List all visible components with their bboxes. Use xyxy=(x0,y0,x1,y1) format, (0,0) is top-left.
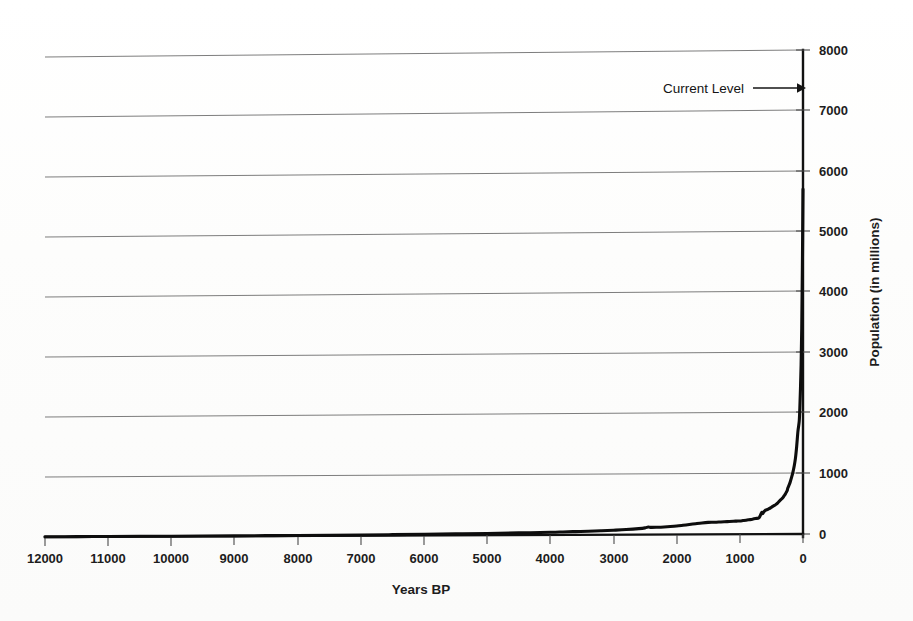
population-curve xyxy=(45,189,803,537)
chart-page: 8000 7000 6000 5000 4000 3000 2000 1000 … xyxy=(0,0,913,621)
x-tick-label-1000: 1000 xyxy=(726,551,755,566)
population-line-chart: 8000 7000 6000 5000 4000 3000 2000 1000 … xyxy=(0,0,913,621)
x-tick-label-5000: 5000 xyxy=(473,551,502,566)
y-axis-title: Population (in millions) xyxy=(867,217,882,366)
y-tick-label-8000: 8000 xyxy=(819,43,848,58)
y-axis: 8000 7000 6000 5000 4000 3000 2000 1000 … xyxy=(796,43,848,542)
x-tick-label-0: 0 xyxy=(799,551,806,566)
x-tick-label-10000: 10000 xyxy=(153,551,189,566)
y-tick-label-1000: 1000 xyxy=(819,466,848,481)
y-tick-label-6000: 6000 xyxy=(819,164,848,179)
y-tick-label-2000: 2000 xyxy=(819,405,848,420)
x-tick-label-9000: 9000 xyxy=(220,551,249,566)
y-tick-label-0: 0 xyxy=(819,527,826,542)
current-level-label: Current Level xyxy=(663,81,744,96)
x-axis-title: Years BP xyxy=(392,582,451,597)
x-axis: 12000 11000 10000 9000 8000 7000 6000 50… xyxy=(27,534,807,566)
y-tick-label-4000: 4000 xyxy=(819,284,848,299)
current-level-annotation: Current Level xyxy=(663,81,806,96)
x-tick-label-6000: 6000 xyxy=(410,551,439,566)
x-tick-label-8000: 8000 xyxy=(284,551,313,566)
x-tick-label-4000: 4000 xyxy=(536,551,565,566)
x-tick-label-3000: 3000 xyxy=(600,551,629,566)
x-tick-label-11000: 11000 xyxy=(90,551,125,566)
x-tick-label-7000: 7000 xyxy=(347,551,376,566)
arrow-right-icon xyxy=(797,83,806,93)
gridlines xyxy=(45,50,803,537)
y-tick-label-5000: 5000 xyxy=(819,224,848,239)
y-tick-label-3000: 3000 xyxy=(819,345,848,360)
x-tick-label-12000: 12000 xyxy=(27,551,63,566)
y-tick-label-7000: 7000 xyxy=(819,103,848,118)
x-tick-label-2000: 2000 xyxy=(663,551,692,566)
